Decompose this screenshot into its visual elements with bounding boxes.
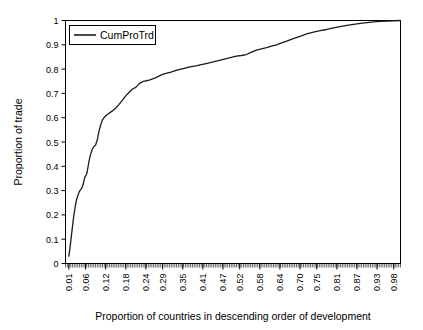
chart-legend: CumProTrd: [70, 26, 156, 45]
x-tick-label: 0.24: [141, 274, 151, 292]
cumulative-trade-chart: 00.10.20.30.40.50.60.70.80.91 0.010.060.…: [0, 0, 423, 330]
x-axis-minor-ticks: [66, 264, 401, 268]
y-tick-label: 0.7: [46, 89, 59, 99]
y-tick-label: 0: [53, 259, 58, 269]
x-tick-label: 0.47: [218, 274, 228, 292]
x-tick-label: 0.12: [101, 274, 111, 292]
x-axis-title: Proportion of countries in descending or…: [95, 310, 371, 322]
y-tick-label: 0.6: [46, 113, 59, 123]
x-tick-label: 0.87: [352, 274, 362, 292]
x-tick-label: 0.75: [312, 274, 322, 292]
y-tick-label: 1: [53, 16, 58, 26]
y-tick-label: 0.9: [46, 40, 59, 50]
y-tick-label: 0.3: [46, 186, 59, 196]
x-tick-label: 0.41: [198, 274, 208, 292]
x-tick-label: 0.58: [255, 274, 265, 292]
y-axis-ticks: [62, 21, 66, 264]
y-tick-label: 0.4: [46, 162, 59, 172]
y-tick-label: 0.5: [46, 138, 59, 148]
y-axis-tick-labels: 00.10.20.30.40.50.60.70.80.91: [46, 16, 59, 269]
x-tick-label: 0.70: [295, 274, 305, 292]
x-tick-label: 0.29: [158, 274, 168, 292]
y-tick-label: 0.8: [46, 65, 59, 75]
legend-label-cumprotrd: CumProTrd: [100, 29, 154, 41]
x-tick-label: 0.64: [275, 274, 285, 292]
x-tick-label: 0.98: [389, 274, 399, 292]
x-tick-label: 0.01: [64, 274, 74, 292]
x-tick-label: 0.93: [372, 274, 382, 292]
data-series-group: [69, 21, 401, 257]
x-axis-tick-labels: 0.010.060.120.180.240.290.350.410.470.52…: [64, 274, 399, 292]
series-line-CumProTrd: [69, 21, 401, 257]
x-tick-label: 0.35: [178, 274, 188, 292]
x-tick-label: 0.18: [121, 274, 131, 292]
x-tick-label: 0.52: [235, 274, 245, 292]
x-tick-label: 0.06: [81, 274, 91, 292]
chart-container: 00.10.20.30.40.50.60.70.80.91 0.010.060.…: [0, 0, 423, 330]
y-axis-title: Proportion of trade: [12, 98, 24, 185]
y-tick-label: 0.1: [46, 235, 59, 245]
y-tick-label: 0.2: [46, 210, 59, 220]
x-tick-label: 0.81: [332, 274, 342, 292]
